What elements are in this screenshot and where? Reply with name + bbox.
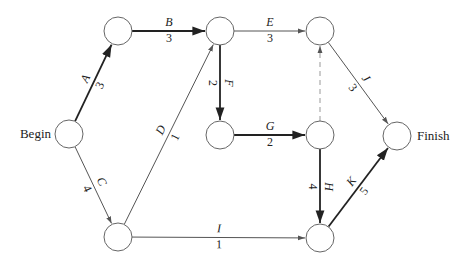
node-label-begin: Begin: [20, 126, 52, 141]
node-n7: [104, 223, 132, 251]
activity-label: E: [265, 15, 274, 29]
node-n3: [206, 17, 234, 45]
duration-label: 2: [267, 135, 273, 149]
duration-label: 3: [166, 31, 172, 45]
duration-label: 3: [92, 80, 107, 91]
activity-label: I: [216, 221, 222, 235]
activity-label: J: [359, 72, 374, 85]
node-begin: [55, 120, 83, 148]
duration-label: 3: [346, 81, 361, 94]
duration-label: 1: [216, 237, 222, 251]
node-label-finish: Finish: [417, 128, 450, 143]
node-n4: [306, 17, 334, 45]
duration-label: 4: [80, 183, 95, 194]
activity-label: D: [152, 123, 169, 138]
activity-label: H: [322, 181, 336, 192]
node-n2: [104, 17, 132, 45]
node-n8: [306, 224, 334, 252]
activity-label: B: [165, 15, 173, 29]
duration-label: 3: [267, 31, 273, 45]
duration-label: 4: [306, 184, 320, 190]
activity-label: F: [222, 78, 236, 87]
activity-label: A: [77, 72, 94, 86]
duration-label: 5: [356, 184, 371, 197]
node-n6: [306, 121, 334, 149]
duration-label: 2: [206, 80, 220, 86]
node-n5: [206, 121, 234, 149]
node-finish: [383, 122, 411, 150]
activity-label: G: [266, 119, 275, 133]
activity-label: C: [94, 175, 111, 189]
network-diagram: A3B3C4D1E3F2G2H4I1J3K5BeginFinish: [0, 0, 467, 263]
duration-label: 1: [167, 131, 182, 143]
